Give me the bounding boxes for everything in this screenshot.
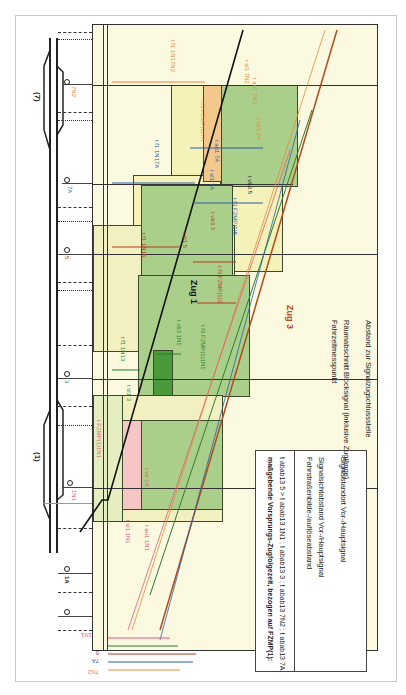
label-tf3-fzmp-7A: t f3 FZMP(1)7A <box>200 100 206 141</box>
label-vb3-1N1: t vb3 1N1 <box>176 320 182 346</box>
legend-item-abstand: Abstand zur Signalzugschlussstelle <box>364 320 373 438</box>
legend-item-fahrstrasse: Fahrstraßenbilde-/auflöseabstand <box>305 457 314 569</box>
label-vb3-7A: t vb3 7A <box>256 118 262 140</box>
label-vb-1A: t vb 1A <box>144 468 150 487</box>
label-tf1-1N15: t f1 1N15 <box>141 233 147 257</box>
legend-item-signalsicht: Signalsichtabstand Vor-/Hauptsignal <box>317 457 326 578</box>
legend-item-fahrzeitmesspunkt: Fahrzeitmesspunkt <box>330 320 339 383</box>
label-sl1-5: t sl1 5 <box>182 232 188 248</box>
label-tf1-1N17A: t f1 1N17A <box>154 140 160 168</box>
label-tf3-fzmp-3: t f3 FZMP(1)3 <box>217 266 223 303</box>
label-sl1-3: t sl1 3 <box>126 385 132 401</box>
label-sl1-7N2: t sl1 7N2 <box>244 60 250 84</box>
label-sl1-7A: t sl1 7A <box>209 170 215 190</box>
label-vb3-3: t vb3 3 <box>210 212 216 230</box>
label-au1-7N2: t au1 7N2 <box>252 78 258 104</box>
legend-formula: t abab13 5 > t abab13 1N1 ; t abab13 3 ;… <box>279 457 286 670</box>
label-tf1-1N17N2: t f1 1N17N2 <box>170 40 176 72</box>
legend-divider <box>294 451 295 671</box>
legend-item-raeumabschnitt: Räumabschnitt Blocksignal (inklusive Zug… <box>342 320 351 479</box>
label-zug-3: Zug 3 <box>285 305 295 329</box>
label-tf3-fzmp-1N1: t f3 FZMP(1)1N1 <box>200 325 206 370</box>
label-fzmp-1N1: t FZMP(1)1N1 <box>96 420 102 458</box>
label-zug-1: Zug 1 <box>189 280 199 304</box>
label-tf3-fzmp-5: t f3 FZMP(1)5 <box>232 198 238 235</box>
legend-heading: maßgebende Vorsprungs-Zugfolgezeit, bezo… <box>267 457 274 661</box>
label-sl1-1N1: t sl1 1N1 <box>125 520 131 544</box>
label-tf1-1N13: t f1 1N13 <box>120 337 126 361</box>
legend-box: maßgebende Vorsprungs-Zugfolgezeit, bezo… <box>255 450 367 672</box>
label-au1-7A: t au1 7A <box>214 140 220 162</box>
label-vb3-5: t vb3 5 <box>247 176 253 194</box>
label-au1-1N1: t au1 1N1 <box>144 525 150 551</box>
